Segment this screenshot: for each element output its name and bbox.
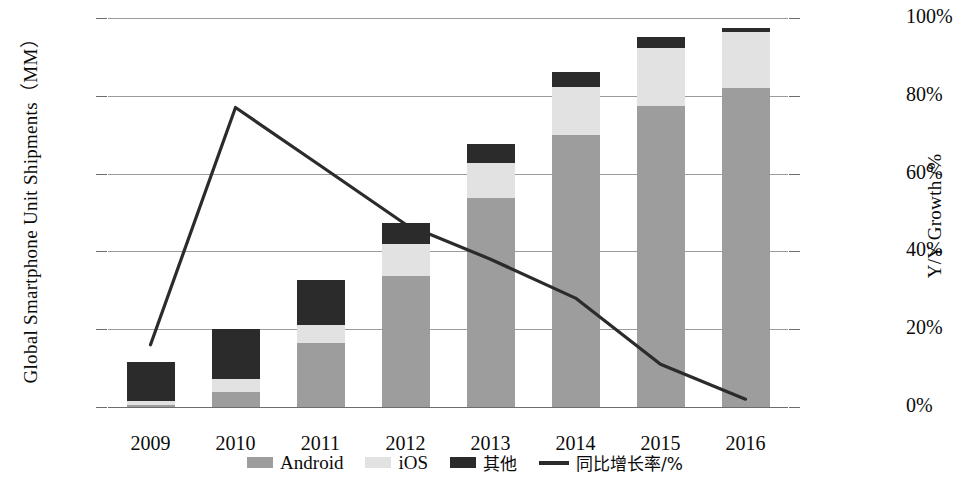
y-right-tick-label: 0%: [906, 394, 957, 417]
y-right-tickmark-20: [789, 329, 800, 330]
line-series-layer: [108, 18, 788, 407]
legend-label: 其他: [483, 450, 517, 475]
legend-square-swatch-icon: [450, 457, 476, 468]
y-right-tickmark-100: [789, 18, 800, 19]
legend-item[interactable]: iOS: [365, 452, 428, 474]
y-left-tickmark-1200: [96, 96, 107, 97]
legend-square-swatch-icon: [247, 457, 273, 468]
legend-label: Android: [280, 452, 343, 474]
y-right-tick-label: 80%: [906, 83, 957, 106]
y-right-tickmark-0: [789, 407, 800, 408]
y-axis-left-title: Global Smartphone Unit Shipments（MM）: [15, 54, 42, 384]
y-left-tickmark-900: [96, 174, 107, 175]
y-left-tickmark-600: [96, 251, 107, 252]
legend-label: iOS: [398, 452, 428, 474]
y-right-tick-label: 40%: [906, 238, 957, 261]
legend-square-swatch-icon: [365, 457, 391, 468]
y-right-tick-label: 60%: [906, 161, 957, 184]
y-right-tickmark-60: [789, 174, 800, 175]
legend-label: 同比增长率/%: [576, 450, 683, 475]
chart-legend: AndroidiOS其他同比增长率/%: [0, 450, 930, 475]
legend-line-swatch-icon: [539, 461, 569, 465]
y-left-tickmark-0: [96, 407, 107, 408]
legend-item[interactable]: 其他: [450, 450, 517, 475]
y-right-tick-label: 100%: [906, 5, 957, 28]
y-left-tickmark-300: [96, 329, 107, 330]
growth-line-path: [151, 108, 746, 400]
y-right-tick-label: 20%: [906, 316, 957, 339]
y-left-tickmark-1500: [96, 18, 107, 19]
y-right-tickmark-40: [789, 251, 800, 252]
gridline-0: [108, 407, 788, 408]
legend-item[interactable]: Android: [247, 452, 343, 474]
plot-area: 030060090012001500 0%20%40%60%80%100% 20…: [108, 18, 788, 407]
y-right-tickmark-80: [789, 96, 800, 97]
legend-item[interactable]: 同比增长率/%: [539, 450, 683, 475]
